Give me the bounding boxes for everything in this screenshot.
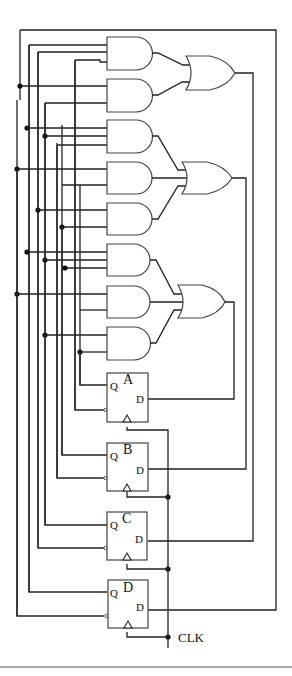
svg-text:C: C	[122, 511, 131, 526]
and-gate-4	[107, 162, 152, 194]
and-gate-3	[107, 120, 153, 153]
flip-flop-d: Q D D	[105, 580, 148, 628]
and-gate-7	[107, 286, 150, 318]
svg-text:Q: Q	[110, 587, 118, 599]
and-gate-5	[107, 203, 152, 235]
or-gate-2	[182, 162, 232, 194]
svg-text:D: D	[136, 464, 144, 476]
svg-text:Q: Q	[110, 450, 118, 462]
wire-frame	[20, 30, 276, 610]
or-gate-3	[178, 285, 225, 318]
and-gate-8	[107, 327, 151, 360]
and-gates	[107, 37, 153, 360]
flip-flop-a: Q A D	[104, 372, 148, 422]
svg-text:D: D	[123, 580, 133, 595]
svg-text:B: B	[123, 442, 132, 457]
flip-flop-b: Q B D	[104, 442, 148, 491]
and-gate-2	[107, 79, 153, 112]
svg-text:Q: Q	[110, 519, 118, 531]
svg-text:D: D	[135, 533, 143, 545]
or-gate-1	[186, 56, 235, 90]
svg-text:D: D	[136, 601, 144, 613]
flip-flop-c: Q C D	[104, 511, 147, 560]
and-gate-6	[107, 244, 150, 276]
svg-text:A: A	[123, 372, 134, 387]
svg-text:Q: Q	[110, 380, 118, 392]
clk-label: CLK	[178, 630, 205, 645]
circuit-diagram: Q A D Q B D Q C D Q D D CLK	[0, 0, 292, 676]
left-bus	[17, 30, 80, 616]
or-gates	[178, 56, 235, 318]
svg-text:D: D	[136, 393, 144, 405]
and-gate-1	[107, 37, 153, 70]
